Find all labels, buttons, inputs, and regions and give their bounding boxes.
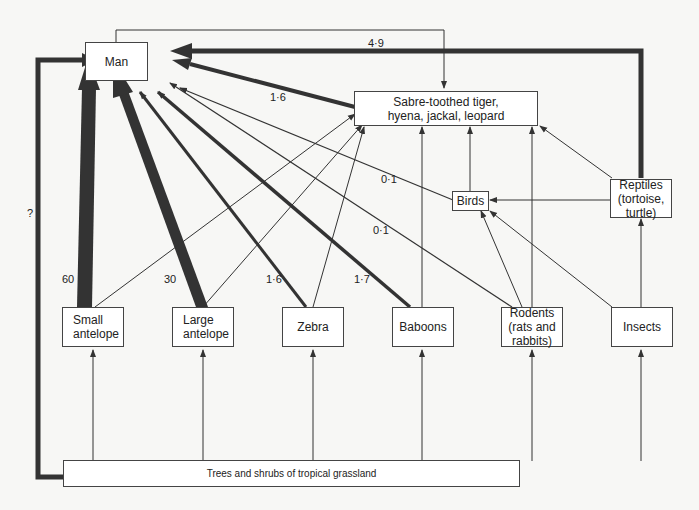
node-small-antelope: Small antelope (62, 307, 124, 347)
label-rodents-to-man: 0·1 (373, 224, 389, 236)
node-zebra-label: Zebra (297, 320, 328, 334)
label-trees-to-man: ? (27, 207, 33, 219)
node-zebra: Zebra (282, 307, 344, 347)
node-predators: Sabre-toothed tiger, hyena, jackal, leop… (354, 91, 538, 126)
node-insects: Insects (611, 307, 673, 347)
node-large-antelope: Large antelope (172, 307, 234, 347)
label-small-antelope-to-man: 60 (62, 273, 74, 285)
node-predators-label: Sabre-toothed tiger, hyena, jackal, leop… (388, 95, 505, 123)
node-baboons-label: Baboons (399, 320, 446, 334)
node-insects-label: Insects (623, 320, 661, 334)
label-zebra-to-man: 1·6 (266, 273, 282, 285)
label-predators-to-man: 1·6 (270, 91, 286, 103)
label-reptiles-to-man: 4·9 (368, 37, 384, 49)
node-trees-label: Trees and shrubs of tropical grassland (207, 467, 377, 481)
node-birds: Birds (452, 191, 489, 211)
label-birds-to-man: 0·1 (381, 173, 397, 185)
node-rodents: Rodents (rats and rabbits) (501, 307, 563, 347)
node-rodents-label: Rodents (rats and rabbits) (508, 306, 555, 348)
node-small-antelope-label: Small antelope (73, 313, 119, 341)
node-baboons: Baboons (392, 307, 454, 347)
node-reptiles: Reptiles (tortoise, turtle) (610, 179, 672, 218)
label-baboons-to-man: 1·7 (354, 273, 370, 285)
node-large-antelope-label: Large antelope (183, 313, 229, 341)
node-birds-label: Birds (457, 194, 484, 208)
node-man-label: Man (105, 55, 128, 69)
node-trees: Trees and shrubs of tropical grassland (63, 460, 520, 487)
label-large-antelope-to-man: 30 (164, 273, 176, 285)
node-man: Man (85, 42, 148, 81)
node-reptiles-label: Reptiles (tortoise, turtle) (618, 178, 665, 220)
